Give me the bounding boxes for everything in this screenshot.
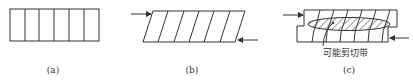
panel-label-a: (a) bbox=[47, 65, 59, 75]
cell-dividers bbox=[25, 9, 84, 41]
panel-a: (a) bbox=[10, 9, 99, 75]
panel-label-c: (c) bbox=[343, 65, 355, 75]
leader-dot bbox=[332, 22, 334, 24]
panel-b: (b) bbox=[131, 11, 258, 75]
slanted-dividers bbox=[158, 11, 230, 42]
panel-label-b: (b) bbox=[186, 65, 199, 75]
shear-zone-annotation: 可能剪切带 bbox=[323, 47, 368, 58]
shear-diagram: (a) (b) bbox=[0, 0, 413, 84]
panel-c: 可能剪切带 (c) bbox=[283, 10, 409, 75]
